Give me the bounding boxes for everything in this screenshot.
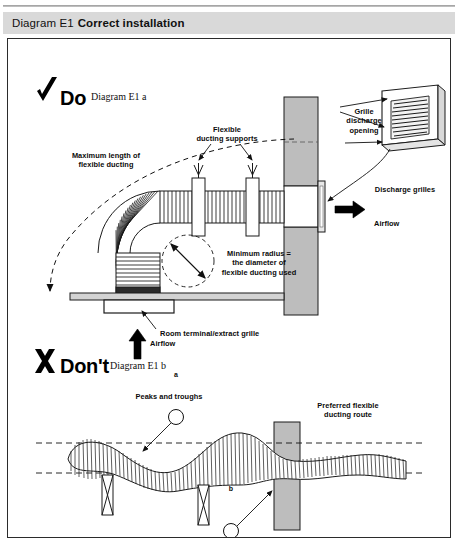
check-mark-icon: [34, 77, 60, 105]
callout-b: [224, 491, 273, 537]
room-terminal-grille: [104, 300, 174, 313]
wall-upper: [284, 97, 318, 186]
flexible-duct-vertical: [116, 253, 160, 295]
label-flexible-ducting-supports: Flexible ducting supports: [191, 125, 263, 144]
airflow-arrow-horizontal: [335, 201, 365, 218]
label-minimum-radius: Minimum radius = the diameter of flexibl…: [204, 249, 314, 277]
label-preferred-route: Preferred flexible ducting route: [305, 401, 391, 420]
dont-support-2: [198, 485, 209, 525]
callout-a-label: a: [168, 370, 184, 379]
ceiling-slab: [70, 293, 284, 300]
do-word: Do: [60, 87, 86, 110]
label-discharge-grilles: Discharge grilles: [360, 185, 450, 194]
callout-b-label: b: [223, 484, 239, 493]
label-airflow-vertical: Airflow: [150, 339, 194, 348]
wall-duct-opening: [284, 186, 318, 227]
duct-support-2: [246, 163, 259, 236]
do-caption: Diagram E1 a: [91, 91, 147, 102]
discharge-grille-plate: [318, 181, 325, 232]
airflow-arrow-vertical: [129, 329, 146, 359]
label-airflow-horizontal: Airflow: [374, 219, 418, 228]
duct-support-1: [192, 163, 205, 236]
dont-support-1: [102, 475, 113, 515]
label-peaks-and-troughs: Peaks and troughs: [114, 392, 224, 401]
label-room-terminal: Room terminal/extract grille: [160, 329, 320, 338]
cross-mark-icon: [33, 349, 59, 377]
flexible-duct-horizontal: [160, 191, 284, 223]
diagram-header-bar: Diagram E1 Correct installation: [3, 12, 455, 34]
page-root: Diagram E1 Correct installation: [0, 0, 458, 545]
dont-word: Don't: [60, 355, 109, 378]
callout-a: [143, 410, 184, 452]
supports-leader-lines: [199, 144, 252, 160]
dont-caption: Diagram E1 b: [110, 360, 166, 371]
label-grille-discharge-opening: Grille discharge opening: [336, 107, 392, 135]
header-prefix: Diagram E1: [12, 17, 74, 29]
label-maximum-length: Maximum length of flexible ducting: [56, 151, 156, 170]
room-terminal-leader: [142, 311, 156, 329]
diagram-panel: Do Diagram E1 a Flexible ducting support…: [7, 38, 451, 538]
header-title: Correct installation: [78, 17, 185, 29]
top-rule: [3, 5, 455, 7]
